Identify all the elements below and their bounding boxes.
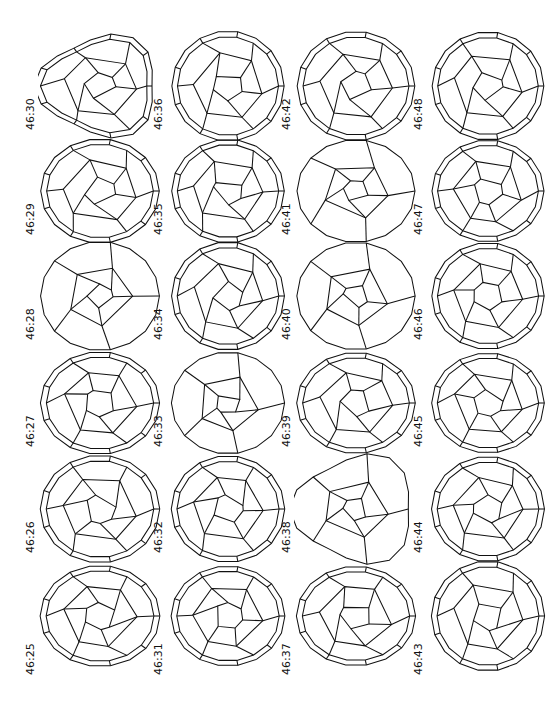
polyhedron-figure: 46:40 bbox=[276, 245, 414, 357]
polyhedron-drawing bbox=[166, 240, 290, 352]
figure-label: 46:47 bbox=[412, 203, 425, 235]
polyhedron-drawing bbox=[294, 30, 418, 142]
figure-label: 46:32 bbox=[152, 521, 165, 553]
figure-label: 46:40 bbox=[280, 308, 293, 340]
polyhedron-figure: 46:30 bbox=[20, 35, 158, 147]
polyhedron-drawing bbox=[426, 30, 550, 142]
figure-label: 46:28 bbox=[24, 308, 37, 340]
figure-label: 46:30 bbox=[24, 98, 37, 130]
polyhedron-drawing bbox=[38, 135, 162, 247]
figure-label: 46:27 bbox=[24, 415, 37, 447]
polyhedron-figure: 46:29 bbox=[20, 140, 158, 252]
figure-label: 46:29 bbox=[24, 203, 37, 235]
figure-label: 46:48 bbox=[412, 98, 425, 130]
polyhedron-figure: 46:41 bbox=[276, 140, 414, 252]
polyhedron-figure: 46:44 bbox=[408, 458, 546, 570]
figure-label: 46:41 bbox=[280, 203, 293, 235]
polyhedron-drawing bbox=[426, 560, 550, 672]
polyhedron-drawing bbox=[166, 560, 290, 672]
polyhedron-drawing bbox=[38, 347, 162, 459]
polyhedron-figure: 46:25 bbox=[20, 565, 158, 677]
polyhedron-figure: 46:39 bbox=[276, 352, 414, 464]
polyhedron-figure: 46:47 bbox=[408, 140, 546, 252]
figure-label: 46:38 bbox=[280, 521, 293, 553]
polyhedron-figure: 46:32 bbox=[148, 458, 286, 570]
polyhedron-drawing bbox=[38, 453, 162, 565]
polyhedron-figure: 46:46 bbox=[408, 245, 546, 357]
polyhedron-drawing bbox=[426, 240, 550, 352]
figure-label: 46:39 bbox=[280, 415, 293, 447]
polyhedron-drawing bbox=[166, 30, 290, 142]
figure-label: 46:36 bbox=[152, 98, 165, 130]
polyhedron-drawing bbox=[166, 135, 290, 247]
polyhedron-figure: 46:33 bbox=[148, 352, 286, 464]
polyhedron-figure: 46:27 bbox=[20, 352, 158, 464]
polyhedron-drawing bbox=[166, 347, 290, 459]
figure-label: 46:46 bbox=[412, 308, 425, 340]
figure-label: 46:35 bbox=[152, 203, 165, 235]
figure-label: 46:33 bbox=[152, 415, 165, 447]
polyhedron-figure: 46:45 bbox=[408, 352, 546, 464]
figure-label: 46:26 bbox=[24, 521, 37, 553]
polyhedron-drawing bbox=[294, 347, 418, 459]
figure-label: 46:44 bbox=[412, 521, 425, 553]
polyhedron-figure: 46:28 bbox=[20, 245, 158, 357]
polyhedron-drawing bbox=[294, 560, 418, 672]
polyhedron-drawing bbox=[426, 347, 550, 459]
polyhedron-drawing bbox=[294, 240, 418, 352]
polyhedron-figure: 46:48 bbox=[408, 35, 546, 147]
polyhedron-drawing bbox=[38, 560, 162, 672]
polyhedron-figure: 46:26 bbox=[20, 458, 158, 570]
figure-label: 46:37 bbox=[280, 643, 293, 675]
polyhedron-drawing bbox=[294, 135, 418, 247]
polyhedron-drawing bbox=[294, 453, 418, 565]
figure-label: 46:45 bbox=[412, 415, 425, 447]
polyhedron-drawing bbox=[166, 453, 290, 565]
polyhedron-drawing bbox=[426, 135, 550, 247]
figure-label: 46:42 bbox=[280, 98, 293, 130]
polyhedron-drawing bbox=[38, 240, 162, 352]
polyhedron-figure: 46:36 bbox=[148, 35, 286, 147]
polyhedron-figure: 46:38 bbox=[276, 458, 414, 570]
polyhedron-figure: 46:42 bbox=[276, 35, 414, 147]
figure-label: 46:34 bbox=[152, 308, 165, 340]
polyhedron-drawing bbox=[38, 30, 162, 142]
figure-label: 46:43 bbox=[412, 643, 425, 675]
polyhedron-figure: 46:35 bbox=[148, 140, 286, 252]
polyhedron-figure: 46:43 bbox=[408, 565, 546, 677]
figure-label: 46:25 bbox=[24, 643, 37, 675]
polyhedron-drawing bbox=[426, 453, 550, 565]
figure-label: 46:31 bbox=[152, 643, 165, 675]
polyhedron-figure: 46:34 bbox=[148, 245, 286, 357]
polyhedron-figure: 46:37 bbox=[276, 565, 414, 677]
polyhedron-figure: 46:31 bbox=[148, 565, 286, 677]
